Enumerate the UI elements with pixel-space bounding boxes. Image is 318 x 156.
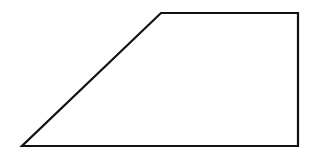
trapezoid-figure (0, 0, 318, 156)
diagram-canvas (0, 0, 318, 156)
trapezoid-shape (22, 13, 298, 146)
